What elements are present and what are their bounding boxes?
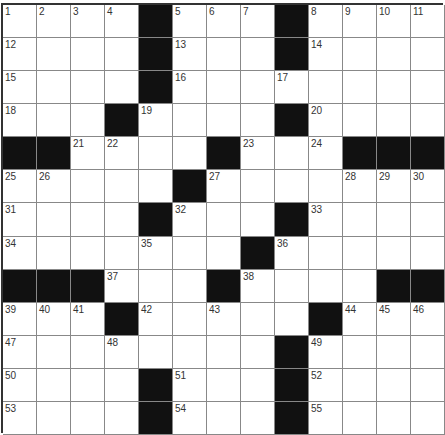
grid-cell[interactable]: 17 <box>275 71 309 104</box>
grid-cell[interactable] <box>207 402 241 435</box>
grid-cell[interactable] <box>37 38 71 71</box>
grid-cell[interactable] <box>241 402 275 435</box>
grid-cell[interactable] <box>37 336 71 369</box>
grid-cell[interactable] <box>241 38 275 71</box>
grid-cell[interactable]: 40 <box>37 303 71 336</box>
grid-cell[interactable] <box>241 203 275 236</box>
grid-cell[interactable]: 1 <box>3 5 37 38</box>
grid-cell[interactable] <box>411 237 445 270</box>
grid-cell[interactable]: 44 <box>343 303 377 336</box>
grid-cell[interactable]: 13 <box>173 38 207 71</box>
grid-cell[interactable] <box>411 402 445 435</box>
grid-cell[interactable]: 31 <box>3 203 37 236</box>
grid-cell[interactable] <box>71 170 105 203</box>
grid-cell[interactable]: 26 <box>37 170 71 203</box>
grid-cell[interactable]: 34 <box>3 237 37 270</box>
grid-cell[interactable] <box>173 137 207 170</box>
grid-cell[interactable]: 43 <box>207 303 241 336</box>
grid-cell[interactable]: 49 <box>309 336 343 369</box>
grid-cell[interactable] <box>105 203 139 236</box>
grid-cell[interactable] <box>71 203 105 236</box>
grid-cell[interactable]: 22 <box>105 137 139 170</box>
grid-cell[interactable] <box>377 402 411 435</box>
grid-cell[interactable] <box>37 237 71 270</box>
grid-cell[interactable] <box>377 369 411 402</box>
grid-cell[interactable]: 55 <box>309 402 343 435</box>
grid-cell[interactable] <box>343 369 377 402</box>
grid-cell[interactable] <box>37 369 71 402</box>
grid-cell[interactable] <box>309 270 343 303</box>
grid-cell[interactable] <box>71 237 105 270</box>
grid-cell[interactable]: 12 <box>3 38 37 71</box>
grid-cell[interactable] <box>377 38 411 71</box>
grid-cell[interactable] <box>173 237 207 270</box>
grid-cell[interactable]: 41 <box>71 303 105 336</box>
grid-cell[interactable]: 36 <box>275 237 309 270</box>
grid-cell[interactable] <box>37 71 71 104</box>
grid-cell[interactable]: 16 <box>173 71 207 104</box>
grid-cell[interactable] <box>207 336 241 369</box>
grid-cell[interactable] <box>309 237 343 270</box>
grid-cell[interactable] <box>207 237 241 270</box>
grid-cell[interactable] <box>241 104 275 137</box>
grid-cell[interactable]: 19 <box>139 104 173 137</box>
grid-cell[interactable]: 25 <box>3 170 37 203</box>
grid-cell[interactable] <box>173 104 207 137</box>
grid-cell[interactable]: 50 <box>3 369 37 402</box>
grid-cell[interactable]: 29 <box>377 170 411 203</box>
grid-cell[interactable] <box>343 270 377 303</box>
grid-cell[interactable] <box>105 369 139 402</box>
grid-cell[interactable] <box>275 137 309 170</box>
grid-cell[interactable] <box>105 170 139 203</box>
grid-cell[interactable]: 42 <box>139 303 173 336</box>
grid-cell[interactable] <box>309 71 343 104</box>
grid-cell[interactable] <box>173 336 207 369</box>
grid-cell[interactable]: 20 <box>309 104 343 137</box>
grid-cell[interactable] <box>411 369 445 402</box>
grid-cell[interactable]: 8 <box>309 5 343 38</box>
grid-cell[interactable] <box>71 38 105 71</box>
grid-cell[interactable]: 37 <box>105 270 139 303</box>
grid-cell[interactable]: 53 <box>3 402 37 435</box>
grid-cell[interactable] <box>37 104 71 137</box>
grid-cell[interactable] <box>343 336 377 369</box>
grid-cell[interactable]: 11 <box>411 5 445 38</box>
grid-cell[interactable] <box>377 71 411 104</box>
grid-cell[interactable]: 46 <box>411 303 445 336</box>
grid-cell[interactable] <box>377 237 411 270</box>
grid-cell[interactable]: 38 <box>241 270 275 303</box>
grid-cell[interactable] <box>139 270 173 303</box>
grid-cell[interactable] <box>71 336 105 369</box>
grid-cell[interactable]: 39 <box>3 303 37 336</box>
grid-cell[interactable]: 35 <box>139 237 173 270</box>
grid-cell[interactable] <box>105 71 139 104</box>
grid-cell[interactable] <box>377 203 411 236</box>
grid-cell[interactable] <box>411 203 445 236</box>
grid-cell[interactable] <box>275 270 309 303</box>
grid-cell[interactable] <box>411 336 445 369</box>
grid-cell[interactable] <box>71 71 105 104</box>
grid-cell[interactable] <box>71 402 105 435</box>
grid-cell[interactable] <box>207 203 241 236</box>
grid-cell[interactable]: 48 <box>105 336 139 369</box>
grid-cell[interactable] <box>241 71 275 104</box>
grid-cell[interactable]: 10 <box>377 5 411 38</box>
grid-cell[interactable] <box>343 402 377 435</box>
grid-cell[interactable] <box>309 170 343 203</box>
grid-cell[interactable]: 47 <box>3 336 37 369</box>
grid-cell[interactable] <box>241 170 275 203</box>
grid-cell[interactable]: 32 <box>173 203 207 236</box>
grid-cell[interactable]: 51 <box>173 369 207 402</box>
grid-cell[interactable] <box>37 203 71 236</box>
grid-cell[interactable] <box>241 303 275 336</box>
grid-cell[interactable]: 6 <box>207 5 241 38</box>
grid-cell[interactable] <box>343 104 377 137</box>
grid-cell[interactable] <box>105 237 139 270</box>
grid-cell[interactable] <box>173 303 207 336</box>
grid-cell[interactable]: 30 <box>411 170 445 203</box>
grid-cell[interactable] <box>411 38 445 71</box>
grid-cell[interactable] <box>173 270 207 303</box>
grid-cell[interactable]: 28 <box>343 170 377 203</box>
grid-cell[interactable] <box>207 71 241 104</box>
grid-cell[interactable] <box>71 369 105 402</box>
